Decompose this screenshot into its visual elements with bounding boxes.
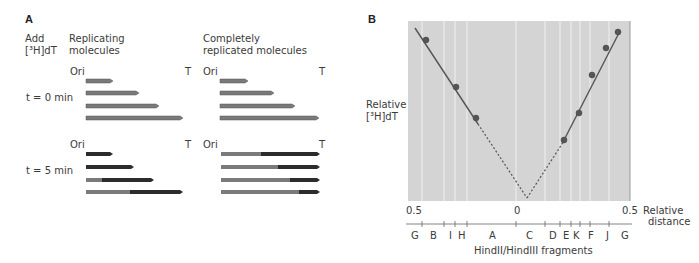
bar-labeled-part xyxy=(261,152,320,156)
bar-labeled-part xyxy=(299,190,320,194)
fragment-label: G xyxy=(411,230,419,242)
bar xyxy=(86,104,159,108)
data-point xyxy=(615,29,621,35)
fragment-label: B xyxy=(430,230,437,242)
fragment-label: A xyxy=(489,230,496,242)
x-axis-label-2: distance xyxy=(648,216,690,228)
bar-labeled-part xyxy=(102,178,154,182)
bar-labeled-part xyxy=(278,165,320,169)
x-tick-center: 0 xyxy=(514,205,520,217)
bars-t5-replicating xyxy=(86,152,183,194)
bar-labeled-part xyxy=(290,178,320,182)
fragment-label: K xyxy=(573,230,580,242)
bars-t5-completed xyxy=(221,152,320,194)
y-axis-label-2: [³H]dT xyxy=(366,111,398,123)
data-point xyxy=(561,137,567,143)
bar-unlabeled-part xyxy=(86,178,102,182)
bars-t0-replicating xyxy=(86,79,183,120)
panel-b-plot xyxy=(406,21,632,227)
bar xyxy=(220,91,274,95)
fragment-axis-caption: HindII/HindIII fragments xyxy=(474,245,593,257)
data-point xyxy=(453,84,459,90)
bar xyxy=(220,79,248,83)
bar xyxy=(220,104,295,108)
bar xyxy=(86,91,139,95)
panel-a-schematic xyxy=(0,0,699,263)
fragment-label: I xyxy=(449,230,452,242)
bar-unlabeled-part xyxy=(86,190,130,194)
fragment-label: C xyxy=(526,230,533,242)
bar xyxy=(86,152,113,156)
plot-background xyxy=(408,21,630,201)
data-point xyxy=(423,37,429,43)
data-point xyxy=(603,45,609,51)
bar-unlabeled-part xyxy=(221,178,290,182)
data-point xyxy=(576,110,582,116)
bar xyxy=(86,79,113,83)
y-axis-label-1: Relative xyxy=(366,99,406,111)
panel-b-label: B xyxy=(368,13,376,25)
fragment-label: F xyxy=(588,230,594,242)
bar xyxy=(220,116,319,120)
fragment-label: H xyxy=(458,230,466,242)
bar-unlabeled-part xyxy=(221,190,299,194)
fragment-label: J xyxy=(606,230,609,242)
data-point xyxy=(473,115,479,121)
x-tick-left: 0.5 xyxy=(406,205,422,217)
fragment-label: G xyxy=(621,230,629,242)
data-point xyxy=(589,72,595,78)
fragment-label: D xyxy=(549,230,557,242)
bars-t0-completed xyxy=(220,79,319,120)
bar-unlabeled-part xyxy=(221,152,261,156)
bar xyxy=(86,116,183,120)
x-tick-right: 0.5 xyxy=(622,205,638,217)
fragment-label: E xyxy=(563,230,569,242)
bar-unlabeled-part xyxy=(221,165,278,169)
bar-labeled-part xyxy=(130,190,183,194)
bar xyxy=(86,165,134,169)
